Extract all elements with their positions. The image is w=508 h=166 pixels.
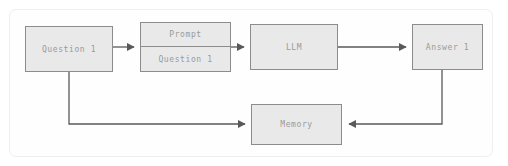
node-prompt[interactable]: Prompt Question 1: [140, 22, 231, 72]
node-llm-label: LLM: [286, 43, 302, 52]
node-prompt-body: Question 1: [141, 47, 230, 71]
node-question-1[interactable]: Question 1: [25, 26, 113, 72]
node-prompt-header-label: Prompt: [169, 30, 202, 39]
node-answer-1[interactable]: Answer 1: [412, 24, 483, 70]
node-memory-label: Memory: [280, 120, 313, 129]
edge-answer1-to-memory: [349, 70, 442, 124]
edge-question1-to-memory: [69, 72, 245, 124]
node-llm[interactable]: LLM: [250, 24, 338, 70]
node-answer-1-label: Answer 1: [426, 43, 469, 52]
diagram-canvas: Question 1 Prompt Question 1 LLM Answer …: [0, 0, 508, 166]
node-memory[interactable]: Memory: [251, 104, 342, 145]
node-prompt-body-label: Question 1: [158, 55, 212, 64]
node-prompt-header: Prompt: [141, 23, 230, 47]
node-question-1-label: Question 1: [42, 45, 96, 54]
